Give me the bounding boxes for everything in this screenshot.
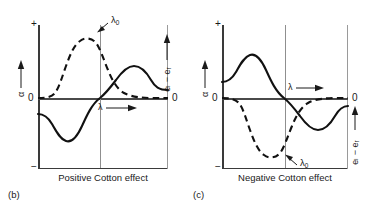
- panel-letter-b: (b): [8, 189, 20, 200]
- panel-caption-c: Negative Cotton effect: [219, 172, 351, 183]
- panel-negative-cotton-effect: + 0 − 0 α eₗ − eᵣ λ λ0 Negative Cotton e…: [187, 0, 374, 206]
- cd-curve-b: [38, 39, 168, 98]
- ord-curve-c: [222, 55, 348, 130]
- ord-curve-b: [38, 66, 168, 141]
- panel-letter-c: (c): [193, 189, 204, 200]
- panel-caption-b: Positive Cotton effect: [38, 172, 168, 183]
- panel-positive-cotton-effect: + 0 − 0 α eₗ − eᵣ λ λ0 Positive Cotton e…: [0, 0, 187, 206]
- cd-curve-c: [222, 98, 348, 157]
